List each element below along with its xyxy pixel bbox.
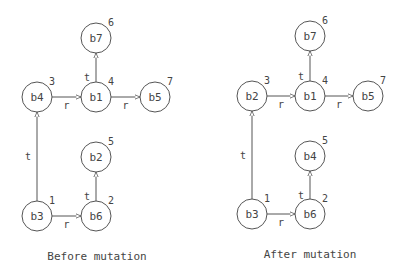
node-b7: b76: [81, 17, 114, 53]
node-label: b5: [148, 91, 161, 104]
edge-label: t: [240, 150, 246, 161]
edge-b4-b1: r: [52, 97, 81, 111]
edge-label: r: [278, 99, 284, 110]
node-order-number: 3: [49, 76, 55, 87]
node-label: b6: [89, 210, 102, 223]
node-label: b1: [89, 91, 102, 104]
mutation-diagram-canvas: rrttrtb43b14b57b76b25b31b62Before mutati…: [0, 0, 402, 268]
node-order-number: 1: [49, 195, 55, 206]
node-order-number: 6: [108, 17, 114, 28]
node-order-number: 7: [380, 75, 386, 86]
node-label: b4: [30, 91, 44, 104]
edge-b1-b7: t: [84, 53, 96, 83]
node-order-number: 1: [264, 193, 270, 204]
node-b2: b25: [81, 136, 114, 172]
node-b4: b45: [295, 135, 328, 171]
node-label: b7: [89, 32, 102, 45]
after-mutation-graph: rrttrtb23b14b57b76b45b31b62After mutatio…: [237, 15, 386, 261]
node-order-number: 4: [322, 75, 328, 86]
diagram-caption: Before mutation: [47, 250, 146, 263]
edge-label: r: [336, 99, 342, 110]
edge-label: t: [298, 190, 304, 201]
edge-label: t: [84, 191, 90, 202]
node-order-number: 3: [264, 75, 270, 86]
node-order-number: 5: [322, 135, 328, 146]
node-label: b3: [245, 208, 258, 221]
edge-b3-b6: r: [52, 216, 81, 230]
edge-label: r: [63, 100, 69, 111]
node-order-number: 5: [108, 136, 114, 147]
before-mutation-graph: rrttrtb43b14b57b76b25b31b62Before mutati…: [22, 17, 173, 263]
node-b2: b23: [237, 75, 270, 111]
node-b3: b31: [237, 193, 270, 229]
node-label: b2: [89, 151, 102, 164]
edge-b3-b4: t: [25, 112, 37, 201]
edge-b6-b4: t: [298, 171, 310, 201]
node-label: b5: [361, 90, 374, 103]
node-order-number: 2: [108, 195, 114, 206]
edge-b1-b5: r: [111, 97, 140, 111]
edge-label: r: [63, 219, 69, 230]
node-b7: b76: [295, 15, 328, 51]
edge-b6-b2: t: [84, 172, 96, 202]
node-order-number: 6: [322, 15, 328, 26]
node-label: b7: [303, 30, 316, 43]
node-label: b3: [30, 210, 43, 223]
edge-b1-b7: t: [298, 51, 310, 82]
edge-b1-b5: r: [325, 96, 353, 110]
node-b5: b57: [140, 76, 173, 112]
node-label: b1: [303, 90, 316, 103]
node-b4: b43: [22, 76, 55, 112]
diagram-caption: After mutation: [264, 248, 357, 261]
edge-b2-b1: r: [267, 96, 295, 110]
node-order-number: 2: [322, 193, 328, 204]
node-order-number: 4: [108, 76, 114, 87]
edge-label: t: [25, 151, 31, 162]
node-label: b4: [303, 150, 317, 163]
edge-label: t: [298, 71, 304, 82]
edge-b3-b2: t: [240, 111, 252, 199]
node-b3: b31: [22, 195, 55, 231]
node-label: b6: [303, 208, 316, 221]
node-label: b2: [245, 90, 258, 103]
node-b5: b57: [353, 75, 386, 111]
edge-label: t: [84, 72, 90, 83]
edge-label: r: [122, 100, 128, 111]
node-order-number: 7: [167, 76, 173, 87]
edge-b3-b6: r: [267, 214, 295, 228]
edge-label: r: [278, 217, 284, 228]
